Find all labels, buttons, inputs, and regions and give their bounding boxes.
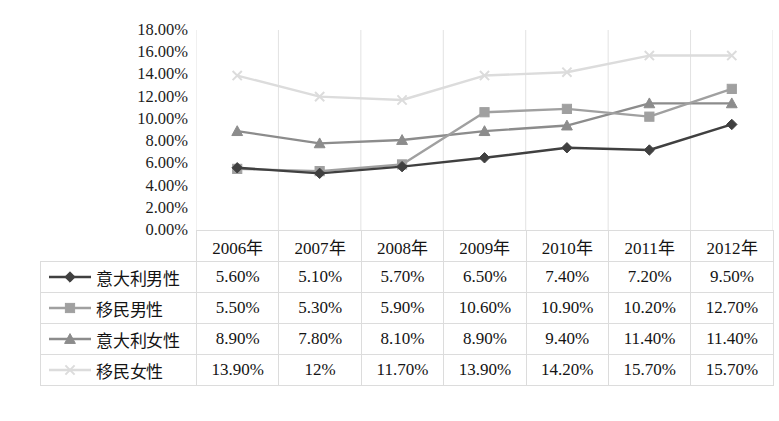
data-point-square [65,303,74,312]
data-point-diamond [727,119,737,129]
legend-marker-square-icon [47,299,93,317]
plot-area [196,30,773,230]
data-point-diamond [65,272,75,282]
table-row: 意大利女性8.90%7.80%8.10%8.90%9.40%11.40%11.4… [41,324,774,355]
marker-diamond [644,145,654,155]
table-cell: 5.30% [279,293,361,324]
table-cell: 10.60% [444,293,526,324]
table-cell: 10.90% [526,293,608,324]
table-cell: 15.70% [691,355,773,386]
data-point-square [562,104,571,113]
y-tick-label: 4.00% [38,178,188,194]
table-cell: 12% [279,355,361,386]
y-tick-label: 8.00% [38,133,188,149]
table-body: 意大利男性5.60%5.10%5.70%6.50%7.40%7.20%9.50%… [41,262,774,386]
table-cell: 15.70% [608,355,690,386]
table-row: 移民男性5.50%5.30%5.90%10.60%10.90%10.20%12.… [41,293,774,324]
legend-marker-x-icon [47,361,93,379]
marker-square [562,104,571,113]
table-cell: 11.40% [608,324,690,355]
y-tick-label: 10.00% [38,111,188,127]
series-x [233,51,737,105]
table-cell: 14.20% [526,355,608,386]
line-chart-with-data-table: 18.00%16.00%14.00%12.00%10.00%8.00%6.00%… [0,0,779,421]
table-cell: 10.20% [608,293,690,324]
table-column-header-2009年: 2009年 [444,231,526,262]
legend-series-label: 意大利男性 [96,265,180,290]
y-tick-label: 2.00% [38,200,188,216]
data-point-square [645,112,654,121]
legend-series-label: 移民女性 [96,358,163,383]
table-row: 意大利男性5.60%5.10%5.70%6.50%7.40%7.20%9.50% [41,262,774,293]
table-cell: 5.70% [361,262,443,293]
legend-marker-diamond-icon [47,268,93,286]
data-table: 2006年2007年2008年2009年2010年2011年2012年 意大利男… [40,230,774,386]
marker-diamond [727,119,737,129]
table-cell: 11.70% [361,355,443,386]
table-cell: 12.70% [691,293,773,324]
marker-square [645,112,654,121]
table-cell: 7.40% [526,262,608,293]
marker-diamond [479,153,489,163]
table-cell: 5.10% [279,262,361,293]
legend-marker-triangle-icon [47,330,93,348]
series-triangle [232,98,737,148]
table-cell: 13.90% [197,355,279,386]
y-tick-label: 18.00% [38,22,188,38]
table-column-header-2011年: 2011年 [608,231,690,262]
legend-cell-x: 移民女性 [41,355,197,386]
y-tick-label: 6.00% [38,155,188,171]
data-point-diamond [479,153,489,163]
legend-cell-triangle: 意大利女性 [41,324,197,355]
table-cell: 8.90% [197,324,279,355]
data-point-square [480,108,489,117]
table-cell: 7.80% [279,324,361,355]
series-canvas [196,30,773,230]
marker-diamond [562,143,572,153]
data-point-diamond [644,145,654,155]
marker-diamond [65,272,75,282]
table-column-header-2012年: 2012年 [691,231,773,262]
legend-series-label: 移民男性 [96,296,163,321]
table-cell: 8.90% [444,324,526,355]
table-cell: 5.50% [197,293,279,324]
table-corner-cell [41,231,197,262]
marker-square [727,84,736,93]
table-column-header-2006年: 2006年 [197,231,279,262]
table-column-header-2010年: 2010年 [526,231,608,262]
marker-square [65,303,74,312]
table-cell: 9.50% [691,262,773,293]
table-row: 移民女性13.90%12%11.70%13.90%14.20%15.70%15.… [41,355,774,386]
table-header-row: 2006年2007年2008年2009年2010年2011年2012年 [41,231,774,262]
table-cell: 7.20% [608,262,690,293]
legend-cell-square: 移民男性 [41,293,197,324]
table-column-header-2008年: 2008年 [361,231,443,262]
table-cell: 8.10% [361,324,443,355]
y-tick-label: 12.00% [38,89,188,105]
marker-square [480,108,489,117]
table-cell: 5.90% [361,293,443,324]
y-tick-label: 14.00% [38,66,188,82]
series-line [237,56,732,100]
table-column-header-2007年: 2007年 [279,231,361,262]
table-cell: 11.40% [691,324,773,355]
plot-wrapper: 18.00%16.00%14.00%12.00%10.00%8.00%6.00%… [40,30,773,230]
legend-cell-diamond: 意大利男性 [41,262,197,293]
table-cell: 9.40% [526,324,608,355]
table-cell: 13.90% [444,355,526,386]
y-tick-label: 16.00% [38,44,188,60]
data-point-square [727,84,736,93]
table-cell: 6.50% [444,262,526,293]
table-cell: 5.60% [197,262,279,293]
y-axis-tick-labels: 18.00%16.00%14.00%12.00%10.00%8.00%6.00%… [40,30,192,230]
data-point-diamond [562,143,572,153]
legend-series-label: 意大利女性 [96,327,180,352]
